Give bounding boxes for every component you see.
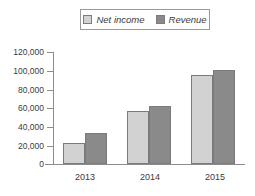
y-axis-label-20000: 20,000: [0, 142, 44, 151]
legend-swatch-net-income: [83, 15, 92, 24]
bar-chart-figure: Net income Revenue 120,000 100,000 80,00…: [0, 0, 255, 196]
legend-label-revenue: Revenue: [169, 15, 207, 25]
plot-area: [53, 52, 245, 164]
bar-revenue-2014: [149, 106, 171, 164]
y-axis-label-40000: 40,000: [0, 123, 44, 132]
bar-net-income-2015: [191, 75, 213, 164]
legend-entry-revenue: Revenue: [156, 15, 207, 25]
y-axis-label-60000: 60,000: [0, 104, 44, 113]
legend-label-net-income: Net income: [96, 15, 144, 25]
chart-legend: Net income Revenue: [80, 9, 210, 30]
x-axis-line: [45, 164, 245, 165]
bar-revenue-2013: [85, 133, 107, 164]
legend-swatch-revenue: [156, 15, 165, 24]
bar-revenue-2015: [213, 70, 235, 164]
bar-net-income-2014: [127, 111, 149, 164]
y-axis-label-80000: 80,000: [0, 86, 44, 95]
y-axis-label-100000: 100,000: [0, 67, 44, 76]
legend-entry-net-income: Net income: [83, 15, 144, 25]
bar-net-income-2013: [63, 143, 85, 165]
x-axis-label-2013: 2013: [56, 172, 114, 182]
x-axis-label-2015: 2015: [186, 172, 244, 182]
y-axis-label-120000: 120,000: [0, 48, 44, 57]
y-axis-tick: [47, 164, 53, 165]
y-axis-label-0: 0: [0, 160, 44, 169]
x-axis-label-2014: 2014: [121, 172, 179, 182]
